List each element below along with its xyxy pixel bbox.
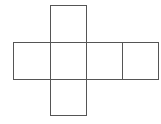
top-face bbox=[50, 5, 87, 43]
center-face bbox=[50, 42, 87, 80]
right-face bbox=[86, 42, 123, 80]
bottom-face bbox=[50, 79, 87, 116]
far-right-face bbox=[122, 42, 159, 80]
left-face bbox=[13, 42, 51, 80]
